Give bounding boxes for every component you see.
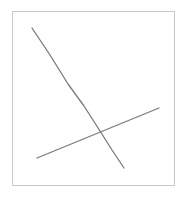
descending-curve-stroke xyxy=(32,28,124,168)
ascending-line-stroke xyxy=(37,108,159,158)
drawing-canvas xyxy=(0,0,188,200)
